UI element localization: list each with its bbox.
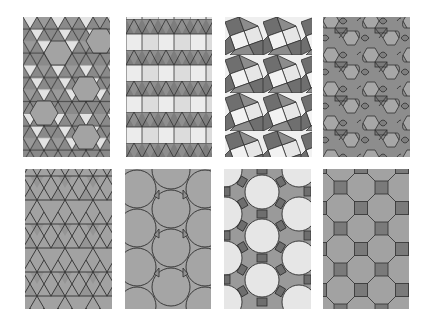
tiling-panel-snub-hexagonal <box>23 17 110 157</box>
tiling-panel-rhombitrihexagonal <box>323 17 410 157</box>
snub-hexagonal-graphic <box>23 17 110 157</box>
rhombitrihexagonal-graphic <box>323 17 410 157</box>
tiling-panel-trihexagonal <box>25 169 112 309</box>
truncated-trihexagonal-graphic <box>224 169 311 309</box>
tiling-panel-elongated-triangular <box>126 17 212 157</box>
trihexagonal-graphic <box>25 169 112 309</box>
elongated-triangular-graphic <box>126 17 212 157</box>
snub-square-graphic <box>225 17 312 157</box>
tiling-panel-truncated-hexagonal <box>125 169 211 309</box>
truncated-square-graphic <box>323 169 409 309</box>
tiling-panel-truncated-square <box>323 169 409 309</box>
truncated-hexagonal-graphic <box>125 169 211 309</box>
tiling-panel-snub-square <box>225 17 312 157</box>
tiling-panel-truncated-trihexagonal <box>224 169 311 309</box>
